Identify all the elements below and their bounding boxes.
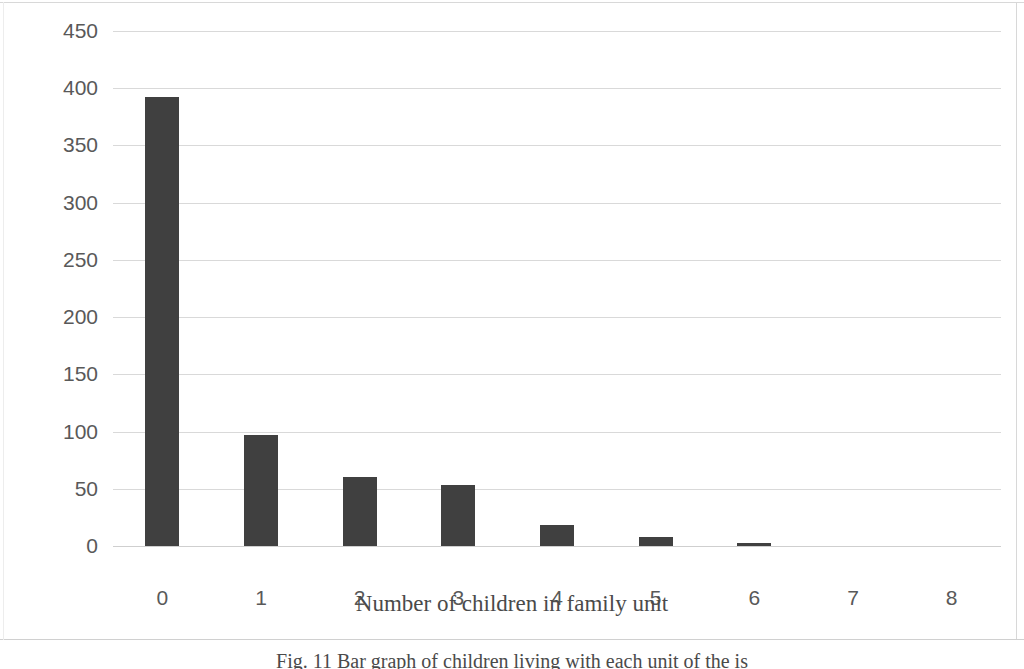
gridline-400 — [113, 88, 1001, 89]
gridline-100 — [113, 432, 1001, 433]
y-tick-label: 250 — [38, 249, 98, 270]
y-tick-label: 150 — [38, 363, 98, 384]
y-tick-label: 50 — [38, 478, 98, 499]
gridline-250 — [113, 260, 1001, 261]
figure-caption: Fig. 11 Bar graph of children living wit… — [0, 650, 1024, 669]
bar[interactable] — [737, 543, 771, 546]
gridline-450 — [113, 31, 1001, 32]
figure-border-top — [0, 2, 1024, 3]
figure-border-bottom — [0, 639, 1024, 640]
x-axis-title: Number of children in family unit — [0, 591, 1024, 617]
y-tick-label: 200 — [38, 306, 98, 327]
plot-area: 050100150200250300350400450012345678 — [113, 31, 1001, 546]
gridline-200 — [113, 317, 1001, 318]
y-tick-label: 400 — [38, 77, 98, 98]
gridline-350 — [113, 145, 1001, 146]
y-tick-label: 100 — [38, 421, 98, 442]
gridline-0 — [113, 546, 1001, 547]
bar[interactable] — [441, 485, 475, 546]
figure-container: Number of families 050100150200250300350… — [0, 0, 1024, 669]
bar[interactable] — [540, 525, 574, 546]
y-tick-label: 350 — [38, 134, 98, 155]
y-tick-label: 450 — [38, 20, 98, 41]
gridline-300 — [113, 203, 1001, 204]
bar[interactable] — [145, 97, 179, 546]
bar[interactable] — [639, 537, 673, 546]
y-tick-label: 300 — [38, 192, 98, 213]
figure-border-left — [3, 2, 4, 640]
y-tick-label: 0 — [38, 535, 98, 556]
figure-border-right — [1016, 2, 1017, 640]
bar[interactable] — [343, 477, 377, 546]
bar[interactable] — [244, 435, 278, 546]
gridline-150 — [113, 374, 1001, 375]
